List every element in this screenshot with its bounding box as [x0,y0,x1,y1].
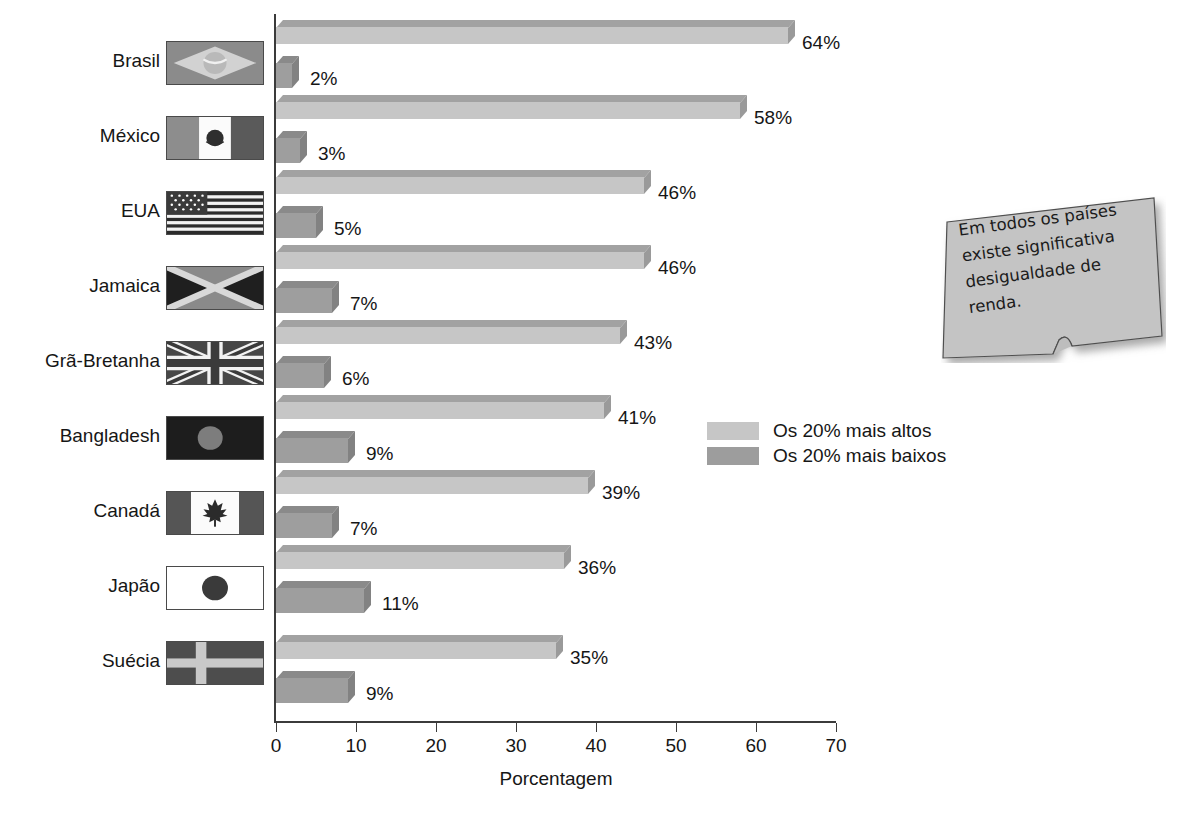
x-tick-label-70: 70 [816,735,856,757]
x-tick-label-40: 40 [576,735,616,757]
value-label-low-canada: 7% [350,518,377,540]
bar-low-japao [276,581,371,613]
value-label-low-brasil: 2% [310,68,337,90]
bar-high-jamaica [276,245,651,269]
value-label-high-eua: 46% [658,182,696,204]
bar-high-suecia [276,635,563,659]
bar-low-mexico [276,131,307,163]
value-label-high-jamaica: 46% [658,257,696,279]
category-label-eua: EUA [121,201,160,220]
x-tick-label-50: 50 [656,735,696,757]
x-axis-title: Porcentagem [276,768,836,790]
category-row-bangladesh: Bangladesh [0,421,160,451]
bar-low-jamaica [276,281,339,313]
bar-low-brasil [276,56,299,88]
bar-high-canada [276,470,595,494]
x-axis-line [274,721,836,723]
bar-high-bangladesh [276,395,611,419]
value-label-low-eua: 5% [334,218,361,240]
flag-brazil-icon [166,41,264,85]
value-label-low-jamaica: 7% [350,293,377,315]
category-row-canada: Canadá [0,496,160,526]
legend-label-low: Os 20% mais baixos [773,444,946,468]
x-tick-label-30: 30 [496,735,536,757]
value-label-low-mexico: 3% [318,143,345,165]
bar-high-japao [276,545,571,569]
x-tick-label-10: 10 [336,735,376,757]
bar-high-mexico [276,95,747,119]
category-row-jamaica: Jamaica [0,271,160,301]
flag-uk-icon [166,341,264,385]
flag-mexico-icon [166,116,264,160]
bar-low-bangladesh [276,431,355,463]
value-label-high-brasil: 64% [802,32,840,54]
sticky-note: Em todos os países existe significativa … [941,196,1166,363]
value-label-high-mexico: 58% [754,107,792,129]
flag-bangladesh-icon [166,416,264,460]
flag-jamaica-icon [166,266,264,310]
bar-high-eua [276,170,651,194]
flag-japan-icon [166,566,264,610]
legend-label-high: Os 20% mais altos [773,419,931,443]
chart-figure: Brasil México EUA [0,0,1204,819]
flag-sweden-icon [166,641,264,685]
value-label-high-gra-bretanha: 43% [634,332,672,354]
legend-swatch-low-icon [707,447,759,465]
category-label-suecia: Suécia [102,651,160,670]
category-label-japao: Japão [108,576,160,595]
category-label-mexico: México [100,126,160,145]
bar-high-brasil [276,20,795,44]
value-label-low-bangladesh: 9% [366,443,393,465]
category-label-jamaica: Jamaica [89,276,160,295]
category-row-japao: Japão [0,571,160,601]
value-label-low-suecia: 9% [366,683,393,705]
bar-low-suecia [276,671,355,703]
bar-low-gra-bretanha [276,356,331,388]
x-tick-label-0: 0 [256,735,296,757]
category-label-canada: Canadá [93,501,160,520]
value-label-high-bangladesh: 41% [618,407,656,429]
value-label-low-gra-bretanha: 6% [342,368,369,390]
category-row-brasil: Brasil [0,46,160,76]
category-row-suecia: Suécia [0,646,160,676]
bar-low-eua [276,206,323,238]
bar-low-canada [276,506,339,538]
category-row-mexico: México [0,121,160,151]
bar-high-gra-bretanha [276,320,627,344]
value-label-high-suecia: 35% [570,647,608,669]
value-label-high-japao: 36% [578,557,616,579]
legend-swatch-high-icon [707,422,759,440]
value-label-high-canada: 39% [602,482,640,504]
category-label-bangladesh: Bangladesh [60,426,160,445]
x-tick-label-20: 20 [416,735,456,757]
category-row-eua: EUA [0,196,160,226]
x-tick-label-60: 60 [736,735,776,757]
category-label-gra-bretanha: Grã-Bretanha [45,351,160,370]
value-label-low-japao: 11% [382,593,419,615]
flag-usa-icon [166,191,264,235]
category-row-gra-bretanha: Grã-Bretanha [0,346,160,376]
category-label-brasil: Brasil [112,51,160,70]
flag-canada-icon [166,491,264,535]
